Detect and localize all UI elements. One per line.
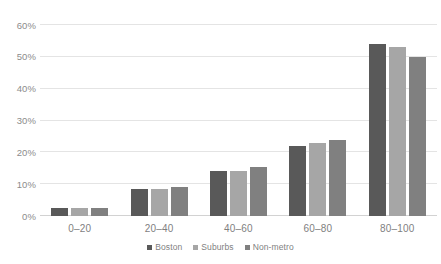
bar	[171, 187, 188, 216]
bar	[230, 171, 247, 216]
bar	[91, 208, 108, 216]
legend-label: Suburbs	[201, 243, 233, 252]
bar	[71, 208, 88, 216]
y-axis-tick-label: 40%	[2, 84, 36, 94]
bar	[250, 167, 267, 216]
y-axis: 0%10%20%30%40%50%60%	[0, 25, 36, 216]
bars-layer	[40, 25, 437, 216]
bar	[389, 47, 406, 216]
legend-swatch-icon	[245, 245, 250, 250]
y-axis-tick-label: 0%	[2, 211, 36, 221]
legend-label: Non-metro	[253, 243, 294, 252]
bar-group	[40, 25, 119, 216]
legend-item[interactable]: Non-metro	[245, 243, 294, 252]
x-axis-tick-label: 20–40	[119, 221, 198, 237]
bar	[409, 57, 426, 216]
bar-group	[358, 25, 437, 216]
bar	[210, 171, 227, 216]
y-axis-tick-label: 30%	[2, 116, 36, 126]
y-axis-tick-label: 20%	[2, 148, 36, 158]
x-axis-tick-label: 40–60	[199, 221, 278, 237]
bar	[51, 208, 68, 216]
bar-group	[119, 25, 198, 216]
y-axis-tick-label: 10%	[2, 179, 36, 189]
legend-item[interactable]: Boston	[147, 243, 182, 252]
legend-label: Boston	[155, 243, 182, 252]
y-axis-tick-label: 60%	[2, 20, 36, 30]
legend-swatch-icon	[193, 245, 198, 250]
bar-group	[278, 25, 357, 216]
bar	[151, 189, 168, 216]
chart-legend: BostonSuburbsNon-metro	[0, 243, 441, 252]
bar-chart: 0%10%20%30%40%50%60% 0–2020–4040–6060–80…	[0, 0, 441, 264]
x-axis-tick-label: 80–100	[358, 221, 437, 237]
y-axis-tick-label: 50%	[2, 52, 36, 62]
bar	[309, 143, 326, 216]
bar	[289, 146, 306, 216]
legend-item[interactable]: Suburbs	[193, 243, 233, 252]
bar-group	[199, 25, 278, 216]
legend-swatch-icon	[147, 245, 152, 250]
bar	[329, 140, 346, 216]
bar	[131, 189, 148, 216]
x-axis-tick-label: 60–80	[278, 221, 357, 237]
x-axis: 0–2020–4040–6060–8080–100	[40, 221, 437, 237]
x-axis-tick-label: 0–20	[40, 221, 119, 237]
bar	[369, 44, 386, 216]
